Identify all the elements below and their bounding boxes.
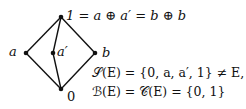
label-bottom: 0	[67, 90, 75, 104]
edge-0-a	[26, 53, 61, 89]
node-a-prime	[51, 51, 56, 56]
label-b: b	[102, 46, 110, 60]
node-b	[93, 51, 98, 56]
node-a	[24, 51, 29, 56]
label-a: a	[9, 45, 17, 59]
node-top	[59, 15, 64, 20]
label-a-prime: a′	[57, 45, 68, 59]
equation-b-c: ℬ(E) = 𝒞(E) = {0, 1}	[92, 85, 225, 99]
label-top: 1 = a ⊕ a′ = b ⊕ b	[66, 9, 186, 23]
equation-s: 𝒮(E) = {0, a, a′, 1} ≠ E,	[92, 66, 244, 80]
edge-a-1	[26, 17, 61, 53]
node-bottom	[59, 87, 64, 92]
